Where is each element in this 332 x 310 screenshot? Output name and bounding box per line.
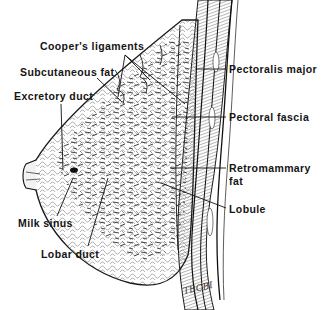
label-milk-sinus: Milk sinus: [18, 217, 73, 229]
breast-anatomy-diagram: Cooper's ligaments Subcutaneous fat Excr…: [0, 0, 332, 310]
breast-tissue-drawing: [23, 20, 198, 285]
label-retromammary-fat-line2: fat: [229, 175, 243, 187]
label-pectoralis-major: Pectoralis major: [229, 63, 317, 75]
label-lobule: Lobule: [229, 203, 266, 215]
label-lobar-duct: Lobar duct: [41, 248, 99, 260]
label-coopers-ligaments: Cooper's ligaments: [40, 40, 144, 52]
label-pectoral-fascia: Pectoral fascia: [229, 111, 309, 123]
label-subcutaneous-fat: Subcutaneous fat: [20, 66, 115, 78]
label-retromammary-fat-line1: Retromammary: [229, 162, 311, 174]
label-excretory-duct: Excretory duct: [14, 90, 93, 102]
